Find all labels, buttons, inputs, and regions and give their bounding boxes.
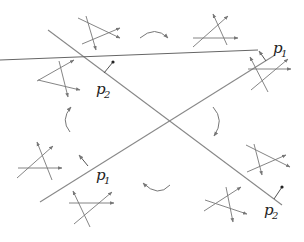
main-line-p2 (48, 30, 282, 205)
crossing-glyph-bottom-left-1 (17, 142, 62, 180)
curved-arrow-left (65, 107, 71, 132)
normal-vector-p2-bottom (274, 187, 282, 199)
svg-text:1: 1 (281, 48, 287, 59)
label-p2-top-left: p 2 (96, 80, 110, 100)
crossing-glyph-top-right-1 (193, 14, 238, 47)
crossing-glyph-bottom-left-2 (69, 191, 114, 227)
svg-text:2: 2 (271, 210, 278, 221)
crossing-glyph-bottom-right-1 (246, 144, 290, 175)
curved-arrow-bottom (143, 183, 170, 191)
label-p1-bottom-left: p 1 (96, 166, 110, 186)
crossing-glyph-top-left-1 (78, 16, 120, 50)
normal-vector-p2-top (104, 62, 113, 73)
diagram-svg: p 1 p 2 p 1 p 2 (0, 0, 304, 242)
diagram-canvas: p 1 p 2 p 1 p 2 (0, 0, 304, 242)
label-p2-bottom-right: p 2 (264, 201, 278, 221)
svg-text:2: 2 (103, 89, 110, 100)
crossing-glyph-top-left-2 (37, 60, 80, 97)
normal-vector-p1-top-fix (259, 51, 266, 61)
curved-arrow-right (213, 107, 219, 136)
normal-vector-p1-top (0, 50, 258, 60)
curved-arrow-top (140, 32, 168, 39)
label-p1-top-right: p 1 (273, 39, 287, 59)
normal-vector-p1-bottom (79, 155, 88, 166)
crossing-glyph-top-right-2 (248, 57, 291, 92)
main-line-p1 (40, 55, 275, 202)
crossing-glyph-bottom-right-2 (204, 187, 247, 222)
svg-text:1: 1 (104, 175, 110, 186)
